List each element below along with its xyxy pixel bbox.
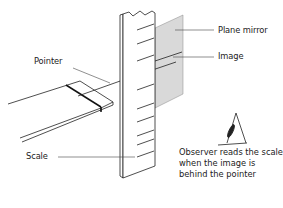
eye-icon (218, 113, 247, 145)
pointer-mark (66, 85, 101, 112)
leader-pointer (73, 68, 110, 83)
label-scale: Scale (26, 151, 48, 162)
label-pointer: Pointer (34, 56, 62, 67)
scale-strip (120, 11, 155, 178)
label-observer: Observer reads the scale when the image … (179, 147, 283, 180)
label-plane-mirror: Plane mirror (218, 25, 268, 36)
label-image: Image (218, 51, 244, 62)
plane-mirror (155, 15, 183, 108)
pointer-bar (8, 81, 113, 142)
